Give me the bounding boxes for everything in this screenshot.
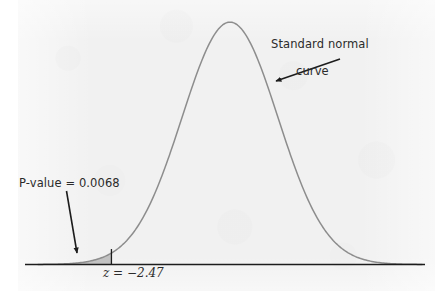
pvalue-callout-arrow xyxy=(67,191,78,253)
curve-label-line1: Standard normal xyxy=(271,37,369,51)
curve-label: Standard normal curve xyxy=(256,24,369,105)
normal-curve-plot xyxy=(0,0,446,302)
pvalue-label: P-value = 0.0068 xyxy=(19,177,120,191)
normal-curve-figure: Standard normal curve P-value = 0.0068 z… xyxy=(0,0,446,302)
curve-label-line2: curve xyxy=(256,65,369,79)
z-value-label: z = −2.47 xyxy=(103,266,164,280)
